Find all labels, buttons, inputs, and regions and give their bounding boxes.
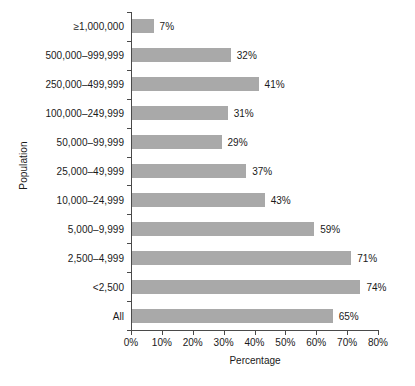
x-axis-tick-label: 50% bbox=[275, 337, 295, 348]
x-axis-tick bbox=[316, 331, 317, 335]
y-axis-tick bbox=[127, 70, 131, 71]
bar-value-label: 59% bbox=[320, 223, 340, 234]
bar-row: ≥1,000,0007% bbox=[131, 12, 378, 41]
bar-row: 250,000–499,99941% bbox=[131, 70, 378, 99]
bar-value-label: 31% bbox=[234, 108, 254, 119]
bar-chart-figure: Population ≥1,000,0007%500,000–999,99932… bbox=[0, 0, 415, 386]
bar-row: 50,000–99,99929% bbox=[131, 128, 378, 157]
y-axis-tick bbox=[127, 12, 131, 13]
y-axis-tick bbox=[127, 243, 131, 244]
bar bbox=[132, 309, 333, 323]
bar bbox=[132, 77, 259, 91]
y-axis-tick bbox=[127, 128, 131, 129]
bar bbox=[132, 106, 228, 120]
bar bbox=[132, 19, 154, 33]
x-axis-tick bbox=[347, 331, 348, 335]
bar bbox=[132, 222, 314, 236]
y-axis-tick bbox=[127, 185, 131, 186]
x-axis-tick-label: 80% bbox=[368, 337, 388, 348]
x-axis-tick bbox=[131, 331, 132, 335]
bar-value-label: 41% bbox=[265, 79, 285, 90]
bar-row: 100,000–249,99931% bbox=[131, 99, 378, 128]
bar bbox=[132, 135, 222, 149]
x-axis-tick-label: 60% bbox=[306, 337, 326, 348]
category-label: ≥1,000,000 bbox=[74, 21, 124, 32]
bar bbox=[132, 48, 231, 62]
y-axis-tick bbox=[127, 99, 131, 100]
x-axis-tick-label: 70% bbox=[337, 337, 357, 348]
category-label: 25,000–49,999 bbox=[57, 165, 124, 176]
category-label: 5,000–9,999 bbox=[68, 223, 124, 234]
bar-row: <2,50074% bbox=[131, 272, 378, 301]
bar-value-label: 71% bbox=[357, 252, 377, 263]
category-label: 100,000–249,999 bbox=[45, 108, 124, 119]
bar bbox=[132, 280, 360, 294]
category-label: 250,000–499,999 bbox=[45, 79, 124, 90]
y-axis-tick bbox=[127, 301, 131, 302]
x-axis-tick-label: 10% bbox=[152, 337, 172, 348]
x-axis-tick-label: 0% bbox=[124, 337, 138, 348]
y-axis-tick bbox=[127, 214, 131, 215]
category-label: <2,500 bbox=[93, 281, 124, 292]
category-label: 50,000–99,999 bbox=[57, 137, 124, 148]
x-axis-title: Percentage bbox=[131, 355, 379, 366]
bar-row: 5,000–9,99959% bbox=[131, 214, 378, 243]
category-label: 2,500–4,999 bbox=[68, 252, 124, 263]
y-axis-tick bbox=[127, 157, 131, 158]
bar-row: 10,000–24,99943% bbox=[131, 185, 378, 214]
y-axis-title-text: Population bbox=[18, 141, 29, 189]
x-axis-tick-label: 30% bbox=[214, 337, 234, 348]
bar-value-label: 29% bbox=[228, 137, 248, 148]
y-axis-title: Population bbox=[14, 0, 32, 330]
bar-row: 2,500–4,99971% bbox=[131, 243, 378, 272]
x-axis-tick bbox=[224, 331, 225, 335]
bar bbox=[132, 164, 246, 178]
y-axis-tick bbox=[127, 41, 131, 42]
bar-row: All65% bbox=[131, 301, 378, 330]
x-axis-tick bbox=[378, 331, 379, 335]
bar-value-label: 65% bbox=[339, 310, 359, 321]
bar-value-label: 74% bbox=[366, 281, 386, 292]
category-label: 10,000–24,999 bbox=[57, 194, 124, 205]
bar-value-label: 43% bbox=[271, 194, 291, 205]
x-axis-tick-label: 20% bbox=[183, 337, 203, 348]
bar-row: 500,000–999,99932% bbox=[131, 41, 378, 70]
bar-row: 25,000–49,99937% bbox=[131, 157, 378, 186]
x-axis-tick bbox=[162, 331, 163, 335]
x-axis-tick-label: 40% bbox=[244, 337, 264, 348]
x-axis-tick bbox=[255, 331, 256, 335]
bar-value-label: 32% bbox=[237, 50, 257, 61]
y-axis-tick bbox=[127, 272, 131, 273]
bar-value-label: 37% bbox=[252, 165, 272, 176]
bar-value-label: 7% bbox=[160, 21, 174, 32]
category-label: 500,000–999,999 bbox=[45, 50, 124, 61]
bar bbox=[132, 193, 265, 207]
x-axis-tick bbox=[285, 331, 286, 335]
x-axis-tick bbox=[193, 331, 194, 335]
category-label: All bbox=[113, 310, 124, 321]
plot-area: ≥1,000,0007%500,000–999,99932%250,000–49… bbox=[131, 12, 378, 330]
bar bbox=[132, 251, 351, 265]
